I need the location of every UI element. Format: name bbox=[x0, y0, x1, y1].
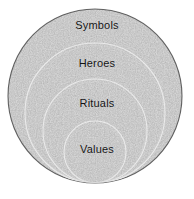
onion-diagram: Symbols Heroes Rituals Values bbox=[0, 0, 194, 199]
nested-circles-graphic bbox=[0, 0, 194, 199]
layer-symbols-shape bbox=[0, 0, 194, 199]
